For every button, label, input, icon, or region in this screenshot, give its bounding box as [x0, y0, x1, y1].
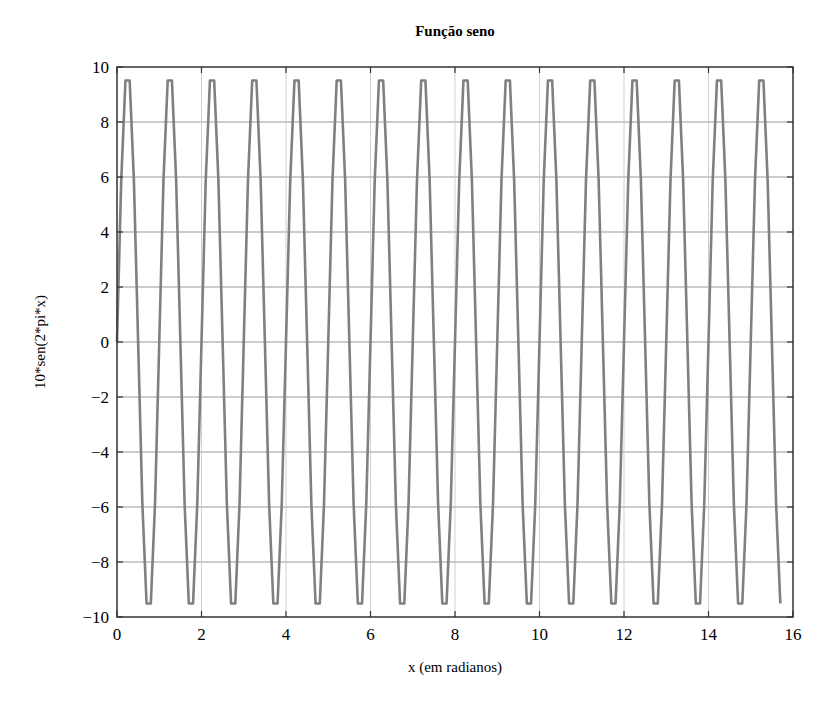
y-tick-label: 10	[92, 58, 109, 77]
y-tick-label: 2	[101, 278, 110, 297]
y-tick-label: 6	[101, 168, 110, 187]
chart-title: Função seno	[415, 23, 495, 39]
x-tick-label: 0	[113, 625, 122, 644]
y-tick-label: −6	[91, 498, 109, 517]
x-tick-label: 12	[616, 625, 633, 644]
y-tick-label: −4	[91, 443, 110, 462]
y-tick-label: 8	[101, 113, 110, 132]
x-tick-label: 16	[785, 625, 802, 644]
x-tick-label: 2	[197, 625, 206, 644]
x-tick-label: 6	[366, 625, 375, 644]
x-tick-label: 8	[451, 625, 460, 644]
chart: Função seno 0246810121416 −10−8−6−4−2024…	[0, 0, 835, 705]
y-tick-label: −8	[91, 553, 109, 572]
y-tick-label: 0	[101, 333, 110, 352]
x-tick-label: 10	[531, 625, 548, 644]
y-tick-label: 4	[101, 223, 110, 242]
y-tick-label: −10	[82, 608, 109, 627]
y-axis-label: 10*sen(2*pi*x)	[32, 295, 49, 389]
x-tick-label: 14	[700, 625, 718, 644]
x-axis-label: x (em radianos)	[408, 659, 502, 676]
x-tick-label: 4	[282, 625, 291, 644]
y-tick-label: −2	[91, 388, 109, 407]
